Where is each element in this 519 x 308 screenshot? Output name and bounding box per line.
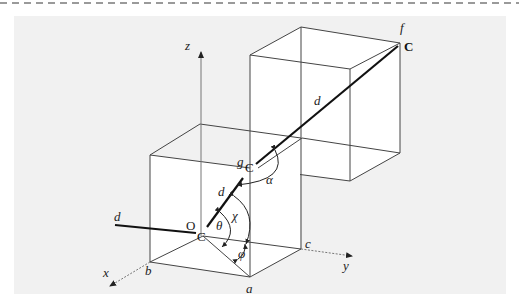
chi-label: χ (230, 208, 238, 223)
atom-g-carbon: C (245, 160, 254, 175)
atom-origin-carbon: C (197, 229, 206, 244)
alpha-label: α (266, 172, 274, 187)
atom-f-carbon: C (404, 39, 413, 54)
diagram-canvas: z x y b a c f g O C C C d d d θ χ φ α (0, 0, 519, 308)
bond-upper-label: d (314, 93, 321, 108)
origin-label: O (186, 218, 195, 233)
bond-lower-label: d (218, 184, 225, 199)
vertex-a-label: a (246, 281, 253, 296)
phi-label: φ (238, 246, 245, 261)
vertex-c-label: c (305, 236, 311, 251)
bond-left-label: d (114, 209, 121, 224)
y-axis-label: y (341, 258, 349, 273)
x-axis-label: x (102, 265, 109, 280)
z-axis-label: z (184, 38, 190, 53)
vertex-g-label: g (237, 154, 244, 169)
vertex-b-label: b (145, 263, 152, 278)
theta-label: θ (216, 218, 223, 233)
